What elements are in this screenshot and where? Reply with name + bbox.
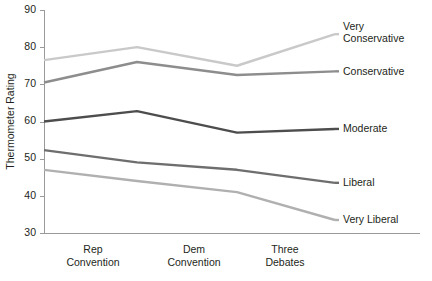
series-line-very-conservative — [44, 34, 335, 66]
y-tick-label-30: 30 — [24, 226, 36, 238]
y-axis-title: Thermometer Rating — [4, 73, 16, 169]
legend-swatches — [335, 34, 339, 220]
legend-labels: VeryConservativeConservativeModerateLibe… — [343, 20, 404, 225]
chart-canvas: 30405060708090 VeryConservativeConservat… — [0, 0, 432, 281]
legend-label-liberal: Liberal — [343, 176, 375, 188]
x-tick-label-0-line1: Rep — [83, 243, 102, 255]
y-tick-label-60: 60 — [24, 114, 36, 126]
line-chart-figure: 30405060708090 VeryConservativeConservat… — [0, 0, 432, 281]
legend-label-very-liberal: Very Liberal — [343, 213, 398, 225]
series-lines — [44, 34, 335, 220]
series-line-moderate — [44, 111, 335, 133]
y-tick-label-70: 70 — [24, 77, 36, 89]
y-axis-ticks — [40, 11, 44, 234]
x-axis-tick-labels: RepConventionDemConventionThreeDebates — [66, 243, 304, 268]
series-line-conservative — [44, 62, 335, 82]
series-line-liberal — [44, 150, 335, 183]
x-tick-label-0-line2: Convention — [66, 256, 119, 268]
y-tick-label-80: 80 — [24, 40, 36, 52]
y-tick-label-50: 50 — [24, 151, 36, 163]
x-tick-label-2-line1: Three — [271, 243, 299, 255]
legend-label-very-conservative-line2: Conservative — [343, 32, 404, 44]
legend-label-conservative: Conservative — [343, 65, 404, 77]
y-tick-label-90: 90 — [24, 3, 36, 15]
legend-label-moderate: Moderate — [343, 122, 388, 134]
x-tick-label-1-line1: Dem — [183, 243, 205, 255]
legend-label-very-conservative: Very — [343, 20, 365, 32]
y-tick-label-40: 40 — [24, 189, 36, 201]
x-tick-label-2-line2: Debates — [265, 256, 304, 268]
x-tick-label-1-line2: Convention — [167, 256, 220, 268]
y-axis-tick-labels: 30405060708090 — [24, 3, 36, 238]
